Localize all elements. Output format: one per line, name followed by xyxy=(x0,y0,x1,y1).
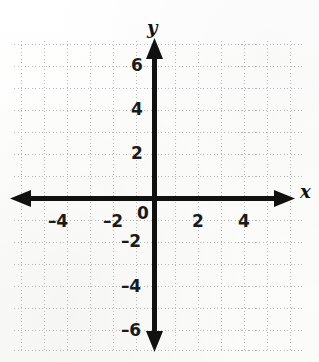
y-tick-label-neg4: –4 xyxy=(121,278,141,295)
y-axis-label: y xyxy=(147,19,157,37)
x-axis-label: x xyxy=(300,183,311,201)
x-axis-arrow-right xyxy=(274,190,295,207)
coordinate-plane-svg xyxy=(0,0,319,362)
y-tick-label-neg2: –2 xyxy=(121,233,141,250)
x-tick-label-4: 4 xyxy=(238,213,250,230)
x-axis-arrow-left xyxy=(10,190,31,207)
y-axis-arrow-up xyxy=(146,38,163,59)
y-tick-label-4: 4 xyxy=(131,101,143,118)
y-axis xyxy=(146,38,163,352)
coordinate-plane-figure: –4 –2 2 4 6 4 2 –2 –4 –6 0 x y xyxy=(0,0,319,362)
y-tick-label-neg6: –6 xyxy=(121,322,141,339)
y-tick-label-6: 6 xyxy=(131,57,143,74)
y-axis-arrow-down xyxy=(146,331,163,352)
y-tick-label-2: 2 xyxy=(131,145,143,162)
x-tick-label-2: 2 xyxy=(192,213,204,230)
x-tick-label-neg2: –2 xyxy=(103,213,123,230)
origin-label: 0 xyxy=(137,205,149,222)
x-tick-label-neg4: –4 xyxy=(48,213,68,230)
